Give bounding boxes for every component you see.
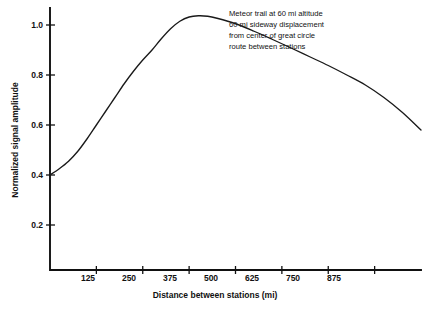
x-axis-title: Distance between stations (mi) <box>153 290 278 300</box>
y-tick-label-1.0: 1.0 <box>31 20 43 30</box>
x-tick-label-625: 625 <box>245 273 259 283</box>
y-tick-label-0.6: 0.6 <box>31 120 43 130</box>
y-tick-label-0.8: 0.8 <box>31 70 43 80</box>
annotation-line-2: 60 mi sideway displacement <box>229 20 325 29</box>
signal-amplitude-line-chart: 125 250 375 500 625 750 875 0.2 0.4 0.6 … <box>0 0 432 309</box>
x-tick-label-250: 250 <box>122 273 136 283</box>
x-tick-label-375: 375 <box>163 273 177 283</box>
x-tick-label-875: 875 <box>327 273 341 283</box>
annotation-line-1: Meteor trail at 60 mi altitude <box>229 9 323 18</box>
chart-figure: 125 250 375 500 625 750 875 0.2 0.4 0.6 … <box>0 0 432 309</box>
y-tick-label-0.4: 0.4 <box>31 170 43 180</box>
x-tick-label-125: 125 <box>81 273 95 283</box>
x-tick-label-500: 500 <box>204 273 218 283</box>
x-tick-label-750: 750 <box>286 273 300 283</box>
y-tick-label-0.2: 0.2 <box>31 220 43 230</box>
y-axis-title: Normalized signal amplitude <box>10 82 20 198</box>
chart-background <box>0 0 432 309</box>
